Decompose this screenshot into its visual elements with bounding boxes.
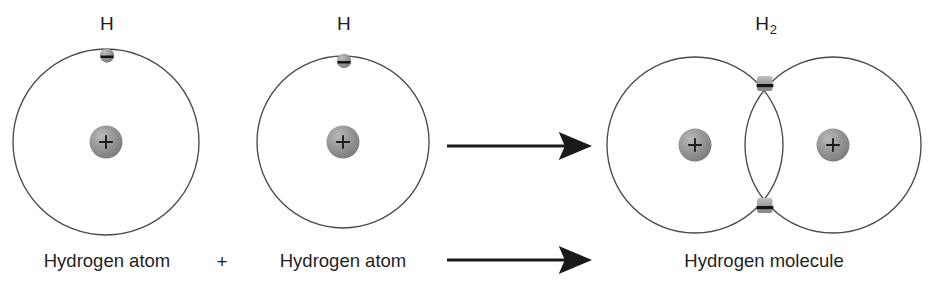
middle-atom-caption: Hydrogen atom xyxy=(280,252,406,271)
shared-electron-top xyxy=(757,76,773,91)
molecule-symbol-main: H xyxy=(755,13,769,34)
middle-atom-symbol: H xyxy=(337,14,351,33)
left-atom-group xyxy=(13,48,199,235)
left-atom-electron xyxy=(100,48,114,62)
hydrogen-molecule-diagram: H H H2 Hydrogen atom + Hydrogen atom Hyd… xyxy=(0,0,929,294)
molecule-symbol-subscript: 2 xyxy=(770,22,777,37)
plus-operator: + xyxy=(216,252,227,271)
middle-atom-electron xyxy=(337,54,351,68)
left-atom-symbol: H xyxy=(100,14,114,33)
molecule-symbol: H2 xyxy=(755,14,776,33)
molecule-group xyxy=(607,57,921,233)
middle-atom-group xyxy=(257,54,429,228)
left-atom-caption: Hydrogen atom xyxy=(44,252,170,271)
shared-electron-bottom xyxy=(757,198,773,213)
molecule-caption: Hydrogen molecule xyxy=(684,252,843,271)
